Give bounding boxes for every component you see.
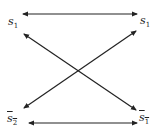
node-top-right: s1 [140,15,150,29]
node-bottom-left: s2 [7,113,17,127]
node-bottom-right: s1 [139,112,149,126]
edge-diagonal-down [24,34,136,110]
diagram-canvas [0,0,156,129]
node-top-left: s1 [8,16,18,30]
edge-diagonal-up [24,31,136,108]
